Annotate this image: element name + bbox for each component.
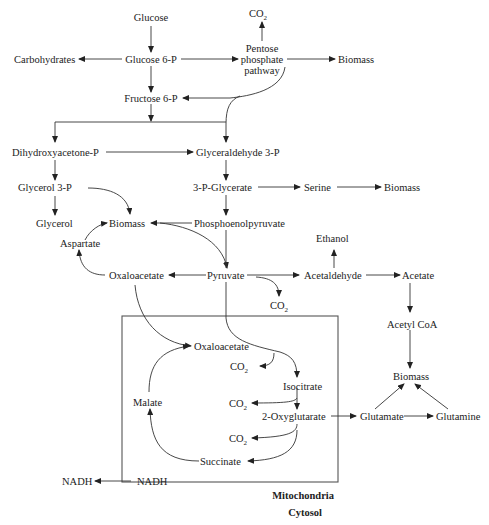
node-nadh-mito: NADH xyxy=(137,476,168,487)
node-co2-oaa: CO2 xyxy=(230,361,249,375)
node-g3p: Glyceraldehyde 3-P xyxy=(196,147,280,158)
node-3pg: 3-P-Glycerate xyxy=(193,182,252,193)
node-biomass-glutamate: Biomass xyxy=(393,371,429,382)
node-2-oxyglutarate: 2-Oxyglutarate xyxy=(262,411,326,422)
node-pep: Phosphoenolpyruvate xyxy=(194,218,285,229)
node-ppp-line3: pathway xyxy=(244,65,280,76)
node-glucose-6p: Glucose 6-P xyxy=(125,54,177,65)
node-acetaldehyde: Acetaldehyde xyxy=(304,270,362,281)
node-oxaloacetate-cytosol: Oxaloacetate xyxy=(109,270,164,281)
node-co2-pyruvate: CO2 xyxy=(270,300,289,314)
node-dhap: Dihydroxyacetone-P xyxy=(12,147,99,158)
node-serine: Serine xyxy=(304,182,331,193)
node-co2-oxyglutarate: CO2 xyxy=(229,433,248,447)
node-glucose: Glucose xyxy=(134,12,169,23)
node-fructose-6p: Fructose 6-P xyxy=(124,93,178,104)
node-glycerol-3p: Glycerol 3-P xyxy=(18,182,72,193)
node-ppp-line1: Pentose xyxy=(246,43,279,54)
node-aspartate: Aspartate xyxy=(60,238,101,249)
node-glycerol: Glycerol xyxy=(36,218,73,229)
label-cytosol: Cytosol xyxy=(288,507,322,518)
node-biomass-center: Biomass xyxy=(109,218,145,229)
node-biomass-serine: Biomass xyxy=(384,182,420,193)
node-isocitrate: Isocitrate xyxy=(283,381,322,392)
node-malate: Malate xyxy=(133,397,162,408)
node-carbohydrates: Carbohydrates xyxy=(14,54,75,65)
node-glutamine: Glutamine xyxy=(436,411,481,422)
metabolic-pathway-diagram: Glucose CO2 Carbohydrates Glucose 6-P Pe… xyxy=(0,0,489,525)
node-oxaloacetate-mito: Oxaloacetate xyxy=(194,341,249,352)
node-acetyl-coa: Acetyl CoA xyxy=(387,319,438,330)
node-pyruvate: Pyruvate xyxy=(207,270,245,281)
node-succinate: Succinate xyxy=(200,456,241,467)
node-acetate: Acetate xyxy=(402,270,434,281)
label-mitochondria: Mitochondria xyxy=(272,490,335,501)
node-glutamate: Glutamate xyxy=(360,411,404,422)
node-biomass-ppp: Biomass xyxy=(338,54,374,65)
node-co2-isocitrate: CO2 xyxy=(229,398,248,412)
node-nadh-cytosol: NADH xyxy=(62,476,93,487)
node-co2-ppp: CO2 xyxy=(249,8,268,22)
node-ppp-line2: phosphate xyxy=(241,54,284,65)
node-ethanol: Ethanol xyxy=(316,233,349,244)
